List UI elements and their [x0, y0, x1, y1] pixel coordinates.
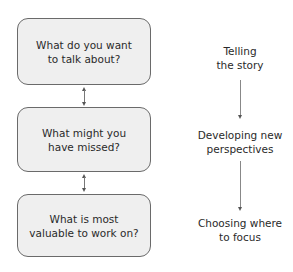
stage-label-2: Developing new perspectives — [190, 128, 290, 156]
arrow-down-icon — [82, 188, 86, 192]
question-text-2: What might you have missed? — [42, 126, 126, 154]
question-box-2: What might you have missed? — [17, 107, 151, 172]
question-box-1: What do you want to talk about? — [17, 18, 151, 85]
stage-label-3: Choosing where to focus — [190, 216, 290, 244]
arrow-down-icon — [238, 115, 242, 119]
arrow-down-icon — [238, 207, 242, 211]
question-text-3: What is most valuable to work on? — [29, 212, 138, 240]
stage-arrow-line-1 — [240, 80, 241, 116]
arrow-down-icon — [82, 102, 86, 106]
question-box-3: What is most valuable to work on? — [17, 194, 151, 257]
stage-label-1: Telling the story — [190, 44, 290, 72]
stage-arrow-line-2 — [240, 161, 241, 208]
question-text-1: What do you want to talk about? — [36, 38, 132, 66]
